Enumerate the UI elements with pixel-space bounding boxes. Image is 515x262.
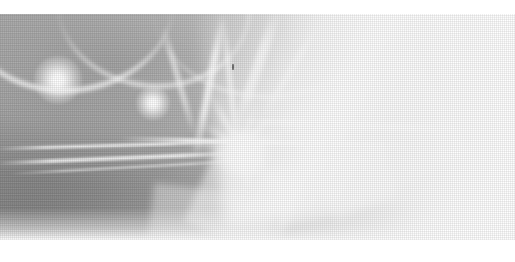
page-canvas: Scanned halftone photograph: pale abstra… <box>0 0 515 262</box>
second-point-light <box>136 86 170 120</box>
upper-left-point-light <box>34 56 82 104</box>
scanned-photograph <box>0 14 515 240</box>
page-margin-top <box>0 0 515 14</box>
dark-speck <box>232 64 234 70</box>
page-margin-bottom <box>0 240 515 262</box>
